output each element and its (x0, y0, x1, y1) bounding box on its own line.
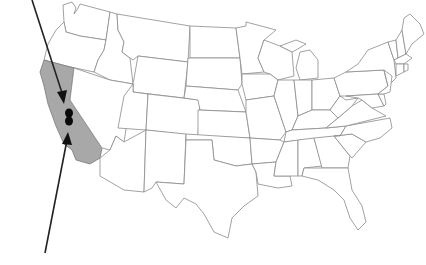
state-north-dakota (190, 26, 240, 58)
state-montana (117, 14, 190, 62)
state-rhode-island (404, 64, 408, 72)
state-maine (402, 14, 424, 54)
state-south-dakota (186, 58, 242, 90)
state-florida (302, 168, 366, 230)
map-caption (0, 256, 426, 265)
us-map (0, 0, 426, 265)
state-kansas (198, 110, 250, 138)
state-wyoming (133, 56, 188, 98)
arrow-from-bottom (45, 140, 67, 253)
state-colorado (146, 94, 200, 136)
location-marker-south (65, 117, 73, 126)
location-marker-north (65, 109, 73, 118)
state-connecticut (396, 64, 404, 76)
